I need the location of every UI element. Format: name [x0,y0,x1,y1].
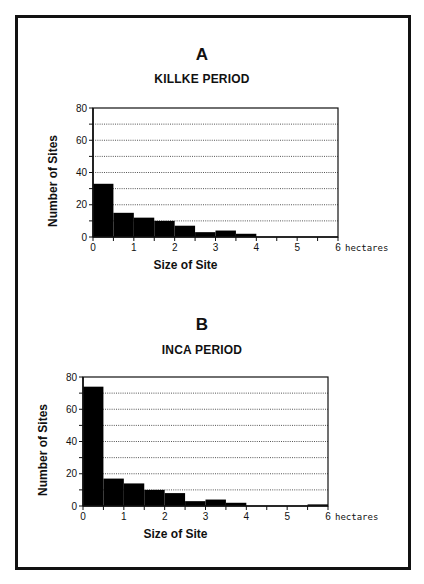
histogram-bar [165,493,185,506]
x-tick-label: 2 [162,511,168,522]
x-tick-label: 6 [325,511,331,522]
histogram-bar [103,479,123,506]
y-tick-label: 40 [66,436,78,447]
y-tick-label: 80 [66,372,78,383]
x-tick-label: 4 [244,511,250,522]
x-tick-label: 3 [203,511,209,522]
x-tick-label: 5 [284,511,290,522]
x-tick-label: 1 [121,511,127,522]
histogram-bar [144,490,164,506]
x-tick-label: 0 [80,511,86,522]
histogram-bar [206,500,226,506]
y-tick-label: 20 [66,468,78,479]
x-unit-label: hectares [335,512,378,522]
y-axis-title: Number of Sites [36,404,50,496]
x-axis-title: Size of Site [143,527,207,541]
histogram-bar [124,483,144,506]
y-tick-label: 0 [71,501,77,512]
histogram-bar [83,387,103,506]
y-tick-label: 60 [66,404,78,415]
chart-b-inca-period: 0204060800123456hectaresSize of SiteNumb… [0,0,424,584]
